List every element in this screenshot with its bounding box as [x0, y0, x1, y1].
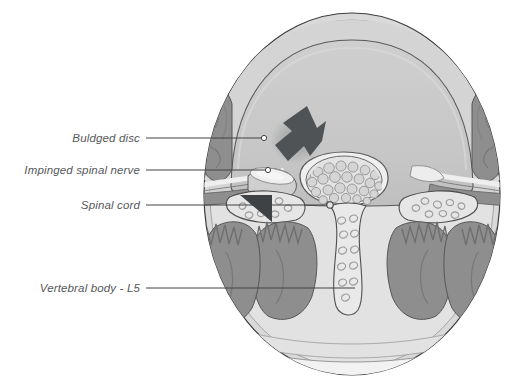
label-spinal-cord: Spinal cord [81, 199, 140, 211]
label-impinged-spinal-nerve: Impinged spinal nerve [24, 164, 140, 176]
label-vertebral-body-l5: Vertebral body - L5 [40, 282, 140, 294]
leader-marker-buldged-disc [261, 135, 266, 140]
spinous-process-body [330, 203, 366, 315]
leader-marker-impinged-spinal-nerve [265, 167, 270, 172]
illustration-canvas: Buldged disc Impinged spinal nerve Spina… [0, 0, 519, 390]
right-psoas-muscle [472, 86, 508, 181]
spinal-canal-group [300, 152, 388, 206]
label-buldged-disc: Buldged disc [72, 132, 140, 144]
right-psoas-body [472, 87, 506, 181]
leader-marker-spinal-cord [327, 202, 333, 208]
left-psoas-muscle [196, 86, 232, 181]
left-psoas-body [199, 87, 233, 181]
spinous-process [330, 203, 366, 315]
right-psoas-fascia [499, 86, 508, 180]
lumbar-cross-section-figure [0, 0, 519, 390]
left-psoas-fascia [196, 86, 205, 180]
